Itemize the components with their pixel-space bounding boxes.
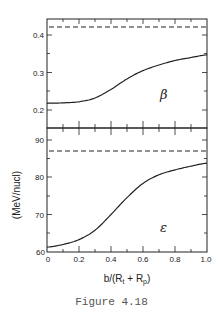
xtick-1.0: 1.0 [200, 255, 212, 264]
epsilon-curve [47, 163, 207, 247]
epsilon-ytick-90: 90 [35, 136, 44, 145]
xtick-0: 0 [46, 255, 51, 264]
epsilon-panel: 90 80 70 60 0 0.2 0.4 0.6 0.8 1.0 ε [35, 128, 212, 264]
beta-panel: 0.4 0.3 0.2 β [33, 19, 207, 128]
beta-panel-frame [47, 19, 207, 128]
xtick-0.6: 0.6 [137, 255, 149, 264]
beta-top-ticks [63, 19, 191, 24]
figure-caption: Figure 4.18 [0, 296, 223, 308]
epsilon-x-ticks [63, 246, 191, 252]
epsilon-panel-frame [47, 128, 207, 252]
beta-ytick-0.3: 0.3 [33, 69, 45, 78]
y-axis-title: (MeV/nucl) [11, 171, 22, 219]
epsilon-ytick-70: 70 [35, 211, 44, 220]
epsilon-y-ticks [47, 140, 207, 233]
beta-label: β [159, 87, 168, 102]
xtick-0.2: 0.2 [73, 255, 85, 264]
beta-curve [47, 55, 207, 103]
epsilon-ytick-80: 80 [35, 173, 44, 182]
x-axis-title: b/(Rt + Rp) [104, 273, 151, 286]
epsilon-label: ε [160, 220, 167, 235]
xtick-0.8: 0.8 [169, 255, 181, 264]
beta-y-ticks [47, 35, 207, 110]
beta-ytick-0.4: 0.4 [33, 31, 45, 40]
epsilon-ytick-60: 60 [36, 248, 45, 257]
beta-ytick-0.2: 0.2 [33, 106, 45, 115]
figure-chart: 0.4 0.3 0.2 β 90 [0, 0, 223, 319]
xtick-0.4: 0.4 [105, 255, 117, 264]
